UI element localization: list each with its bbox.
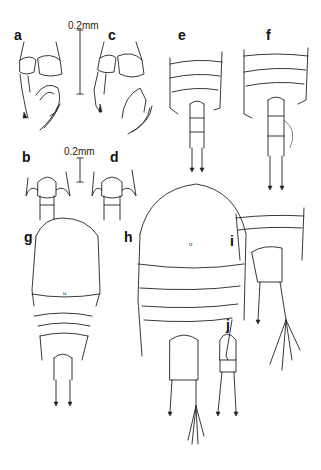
panel-label-b: b	[22, 150, 31, 164]
panel-label-j: j	[226, 318, 230, 332]
copepod-illustrations: u u	[0, 0, 321, 470]
panel-label-c: c	[108, 28, 116, 42]
panel-j-drawing	[216, 334, 238, 416]
panel-label-g: g	[24, 230, 33, 244]
scale-bar-middle-label: 0.2mm	[64, 146, 95, 157]
scale-bar-top-label: 0.2mm	[68, 20, 99, 31]
panel-b-drawing	[26, 172, 70, 220]
svg-text:u: u	[63, 290, 66, 296]
panel-h-drawing: u	[138, 184, 246, 444]
panel-label-f: f	[266, 28, 271, 42]
panel-e-drawing	[170, 52, 222, 172]
panel-f-drawing	[244, 48, 308, 190]
panel-g-drawing: u	[32, 218, 100, 406]
panel-label-h: h	[124, 230, 133, 244]
panel-c-drawing	[94, 42, 152, 134]
panel-label-i: i	[230, 234, 234, 248]
panel-a-drawing	[20, 42, 62, 130]
panel-label-d: d	[110, 150, 119, 164]
svg-text:u: u	[189, 241, 192, 247]
panel-label-a: a	[14, 28, 22, 42]
panel-d-drawing	[92, 170, 136, 220]
panel-label-e: e	[178, 28, 186, 42]
panel-i-drawing	[236, 208, 304, 370]
